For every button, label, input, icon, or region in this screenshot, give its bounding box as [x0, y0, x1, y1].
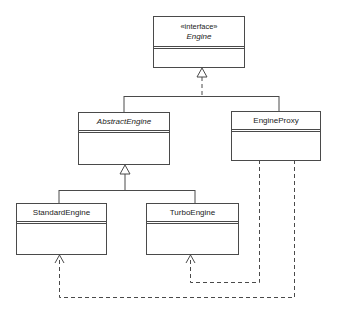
engine-proxy-name: EngineProxy — [232, 116, 320, 125]
generalization-to-abstract-engine — [59, 165, 195, 203]
engine-name: Engine — [154, 32, 244, 41]
engine-proxy-separator — [232, 129, 320, 132]
realization-to-engine — [124, 68, 279, 112]
class-standard-engine[interactable]: StandardEngine — [16, 203, 107, 255]
abstract-engine-name: AbstractEngine — [79, 117, 169, 126]
class-turbo-engine[interactable]: TurboEngine — [146, 203, 239, 255]
turbo-engine-separator — [147, 221, 238, 224]
class-engine-proxy[interactable]: EngineProxy — [231, 111, 321, 161]
abstract-engine-separator — [79, 130, 169, 133]
turbo-engine-name: TurboEngine — [147, 208, 238, 217]
class-abstract-engine[interactable]: AbstractEngine — [78, 112, 170, 165]
engine-stereotype: «interface» — [154, 22, 244, 31]
standard-engine-separator — [17, 221, 106, 224]
class-engine[interactable]: «interface» Engine — [153, 16, 245, 68]
engine-separator — [154, 46, 244, 49]
standard-engine-name: StandardEngine — [17, 208, 106, 217]
